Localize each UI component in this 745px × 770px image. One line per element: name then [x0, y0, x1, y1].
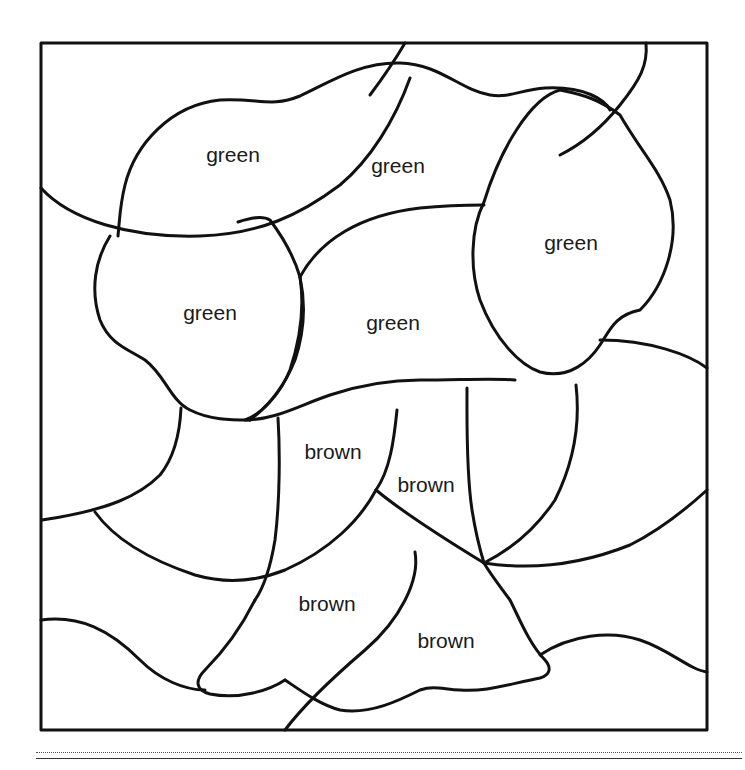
line-art — [0, 0, 745, 770]
region-outline — [376, 410, 397, 490]
region-outline — [370, 43, 405, 95]
region-outline — [238, 217, 303, 420]
region-outline — [285, 552, 416, 730]
region-outline — [600, 340, 707, 368]
region-outline — [41, 619, 205, 690]
dotted-divider — [36, 752, 742, 753]
region-label: brown — [298, 592, 355, 616]
region-label: green — [183, 301, 237, 325]
region-outline — [376, 490, 484, 563]
region-label: green — [371, 154, 425, 178]
region-outline — [198, 600, 285, 696]
region-outline — [42, 408, 181, 520]
region-outline — [95, 490, 376, 580]
region-outline — [118, 63, 610, 236]
region-outline — [540, 635, 707, 672]
region-label: green — [206, 143, 260, 167]
region-outline — [467, 388, 484, 563]
region-outline — [484, 490, 707, 566]
region-outline — [95, 236, 250, 420]
region-outline — [245, 277, 515, 420]
region-label: green — [544, 231, 598, 255]
solid-divider — [36, 758, 742, 759]
region-label: brown — [417, 629, 474, 653]
region-outline — [484, 385, 577, 563]
coloring-page: green green green green green brown brow… — [0, 0, 745, 770]
region-label: green — [366, 311, 420, 335]
region-outline — [300, 205, 484, 277]
region-label: brown — [304, 440, 361, 464]
region-label: brown — [397, 473, 454, 497]
